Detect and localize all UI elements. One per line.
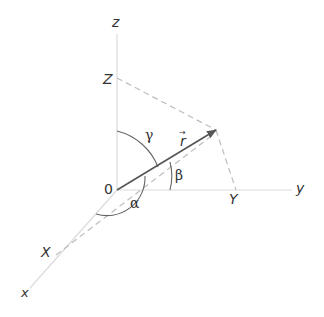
direction-angles-diagram: z Z y Y x X 0 γ β α r →: [0, 0, 324, 317]
x-axis: [30, 190, 117, 288]
gamma-label: γ: [145, 127, 153, 143]
Z-projection-label: Z: [102, 71, 113, 87]
dashed-z-to-tip: [117, 78, 216, 130]
origin-label: 0: [104, 181, 113, 197]
z-axis-label: z: [111, 14, 120, 30]
y-axis-label: y: [295, 180, 305, 196]
vector-r: [117, 130, 216, 190]
dashed-tip-to-y: [216, 130, 236, 190]
Y-projection-label: Y: [229, 191, 239, 207]
x-axis-label: x: [20, 285, 29, 300]
X-projection-label: X: [40, 244, 51, 260]
beta-label: β: [175, 167, 183, 183]
vector-arrow-mark: →: [179, 128, 186, 137]
alpha-label: α: [130, 195, 140, 211]
